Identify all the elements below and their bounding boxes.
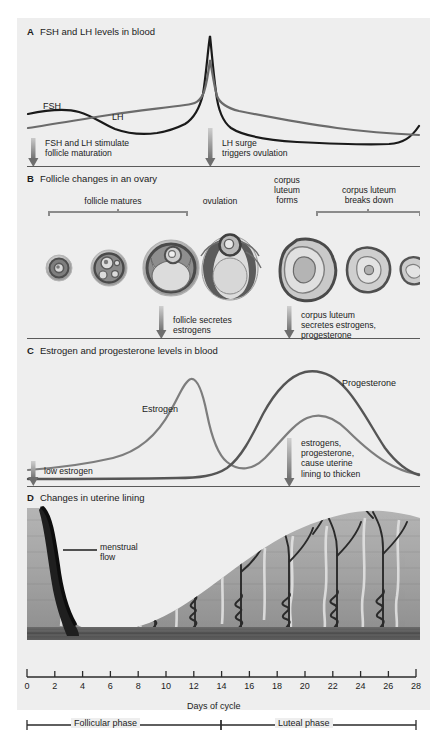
panel-c-arrow-2 <box>283 438 297 488</box>
axis-tick-14: 14 <box>212 681 232 691</box>
follicle-stage-2 <box>91 250 127 286</box>
axis-tick-6: 6 <box>100 681 120 691</box>
panel-b-arrow-1 <box>155 306 169 340</box>
panel-a-arrow-2 <box>204 128 218 168</box>
figure-panel-background: A FSH and LH levels in blood FSH LH FSH … <box>17 18 430 710</box>
panel-b-title: Follicle changes in an ovary <box>40 173 157 184</box>
progesterone-curve-label: Progesterone <box>342 378 396 388</box>
axis-tick-24: 24 <box>350 681 370 691</box>
panel-b-header: B Follicle changes in an ovary <box>27 173 157 184</box>
lh-curve-label: LH <box>112 112 124 122</box>
panel-b-bracket-label-follicle-matures: follicle matures <box>53 196 173 206</box>
figure-root: A FSH and LH levels in blood FSH LH FSH … <box>0 0 447 740</box>
panel-b-bracket-label-ovulation: ovulation <box>185 196 255 206</box>
panel-c-header: C Estrogen and progesterone levels in bl… <box>27 345 218 356</box>
panel-a-chart <box>17 18 430 148</box>
panel-c-divider <box>27 486 420 487</box>
follicle-stage-5-corpus-luteum <box>280 239 336 301</box>
follicle-stage-6-corpus-luteum-regressing <box>347 248 390 293</box>
menstrual-flow-label: menstrual flow <box>100 542 138 562</box>
axis-tick-4: 4 <box>73 681 93 691</box>
panel-b-follicle-series <box>27 218 420 313</box>
panel-a-arrow-1 <box>27 138 41 168</box>
axis-tick-22: 22 <box>323 681 343 691</box>
axis-tick-28: 28 <box>406 681 426 691</box>
panel-c-arrow-1 <box>27 461 41 487</box>
panel-b-bracket-label-corpus-luteum-breaks-down: corpus luteum breaks down <box>317 185 421 205</box>
follicle-stage-7-corpus-albicans <box>401 257 420 284</box>
axis-tick-8: 8 <box>128 681 148 691</box>
panel-d-header: D Changes in uterine lining <box>27 492 144 503</box>
follicle-stage-3 <box>143 240 199 296</box>
panel-a-callout-1: FSH and LH stimulate follicle maturation <box>45 138 129 158</box>
follicle-stage-4-ovulation <box>201 235 261 301</box>
panel-b-letter: B <box>27 173 34 184</box>
panel-b-divider <box>27 338 420 339</box>
axis-tick-26: 26 <box>378 681 398 691</box>
estrogen-curve-label: Estrogen <box>142 404 178 414</box>
axis-tick-12: 12 <box>184 681 204 691</box>
panel-b-callout-2: corpus luteum secretes estrogens, proges… <box>301 310 376 341</box>
fsh-curve <box>28 36 419 144</box>
lh-curve <box>28 60 419 135</box>
axis-tick-10: 10 <box>156 681 176 691</box>
panel-d-uterine-lining <box>27 490 420 660</box>
phase-label-follicular: Follicular phase <box>71 718 140 728</box>
panel-c-callout-2: estrogens, progesterone, cause uterine l… <box>301 438 360 479</box>
panel-c-title: Estrogen and progesterone levels in bloo… <box>40 345 218 356</box>
estrogen-curve <box>28 379 419 474</box>
panel-b-bracket-label-corpus-luteum-forms: corpus luteum forms <box>261 175 313 206</box>
myometrium-band <box>27 627 420 640</box>
axis-tick-18: 18 <box>267 681 287 691</box>
panel-a-divider <box>27 166 420 167</box>
panel-b-brackets <box>27 208 420 218</box>
panel-b-arrow-2 <box>283 306 297 340</box>
panel-a-callout-2: LH surge triggers ovulation <box>222 138 287 158</box>
axis-tick-2: 2 <box>45 681 65 691</box>
panel-c-letter: C <box>27 345 34 356</box>
axis-label: Days of cycle <box>187 701 241 711</box>
panel-d-title: Changes in uterine lining <box>40 492 145 503</box>
phase-label-luteal: Luteal phase <box>275 718 333 728</box>
axis-tick-0: 0 <box>17 681 37 691</box>
panel-b-callout-1: follicle secretes estrogens <box>173 315 232 335</box>
fsh-curve-label: FSH <box>43 101 61 111</box>
panel-c-callout-1: low estrogen <box>44 466 93 476</box>
axis-tick-16: 16 <box>239 681 259 691</box>
follicle-stage-1 <box>46 255 72 281</box>
axis-tick-20: 20 <box>295 681 315 691</box>
panel-d-letter: D <box>27 492 34 503</box>
